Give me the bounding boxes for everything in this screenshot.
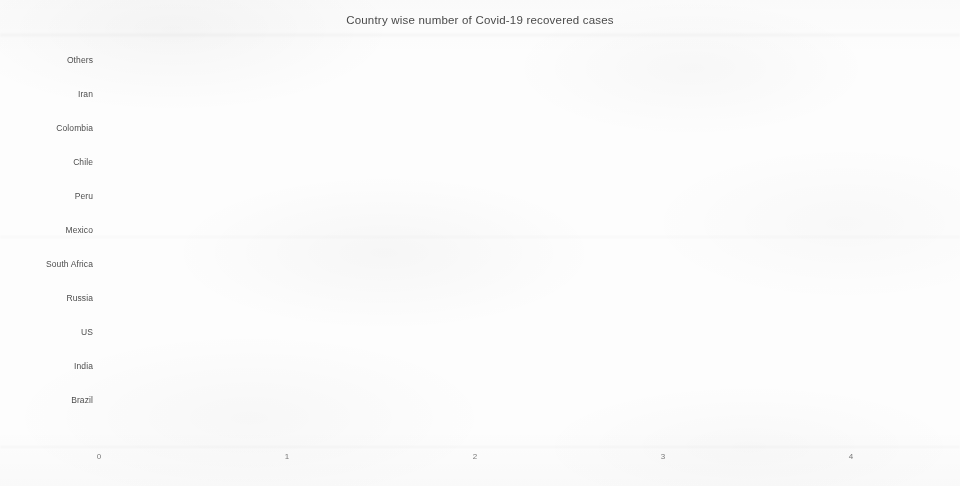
bar-brazil	[99, 387, 608, 414]
bar-south-africa	[99, 251, 189, 278]
bar-colombia	[99, 115, 155, 142]
bar-chile	[99, 149, 169, 176]
y-axis-label-text: Chile	[73, 157, 93, 167]
bar-mexico	[99, 217, 182, 244]
plot-area: OthersIranColombiaChilePeruMexicoSouth A…	[0, 0, 960, 486]
chart-page: Country wise number of Covid-19 recovere…	[0, 0, 960, 486]
y-axis-label-text: Mexico	[65, 225, 93, 235]
y-axis-label-text: Colombia	[56, 123, 93, 133]
y-axis-label-text: Russia	[66, 293, 93, 303]
x-axis-tick-0: 0	[97, 452, 101, 461]
y-axis-label-text: Peru	[75, 191, 93, 201]
x-axis-tick-2: 2	[473, 452, 477, 461]
y-axis-label-text: Others	[67, 55, 93, 65]
y-axis-label-text: India	[74, 361, 93, 371]
bar-us	[99, 319, 452, 346]
y-axis-label-text: South Africa	[46, 259, 93, 269]
bar-peru	[99, 183, 169, 210]
y-axis-label-text: Brazil	[71, 395, 93, 405]
y-axis-label-text: US	[81, 327, 93, 337]
bar-others	[99, 47, 921, 74]
x-axis-tick-4: 4	[849, 452, 853, 461]
y-axis-label-text: Iran	[78, 89, 93, 99]
chart-title: Country wise number of Covid-19 recovere…	[0, 14, 960, 26]
bar-russia	[99, 285, 238, 312]
bar-iran	[99, 81, 155, 108]
bar-india	[99, 353, 471, 380]
x-axis-tick-1: 1	[285, 452, 289, 461]
x-axis-tick-3: 3	[661, 452, 665, 461]
